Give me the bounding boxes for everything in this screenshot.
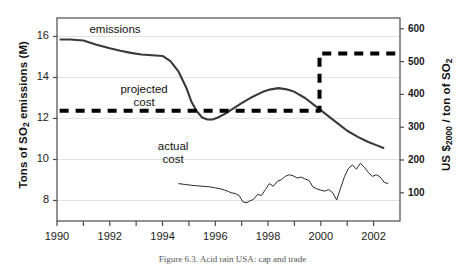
emissions-label: emissions [75,23,155,35]
y-axis-right-title-prefix: US $ [440,145,452,171]
y-tick-right-100: 100 [408,187,442,198]
y-tick-left-14: 14 [19,70,49,82]
data-series [60,40,400,203]
x-tick-1998: 1998 [248,230,288,242]
x-tick-2002: 2002 [354,230,394,242]
axis-ticks [53,29,404,226]
y-axis-right-title-sub2: 2 [444,58,454,63]
plot-area [0,0,465,265]
projected-cost-label-2: cost [104,96,184,108]
y-tick-right-300: 300 [408,121,442,132]
y-tick-right-500: 500 [408,56,442,67]
y-axis-right-title-sub: 2000 [444,126,454,145]
x-tick-1994: 1994 [143,230,183,242]
y-tick-left-16: 16 [19,29,49,41]
chart-figure: Tons of SO2 emissions (M) US $2000 / ton… [0,0,465,265]
figure-caption: Figure 6.3. Acid rain USA: cap and trade [0,254,465,265]
y-tick-left-8: 8 [19,193,49,205]
projected-cost-label: projected [104,83,184,95]
y-axis-right-title-suffix: / ton of SO [440,63,452,126]
gridlines [57,36,400,200]
actual-cost-label: actual [133,140,213,152]
actual-cost-label-2: cost [133,153,213,165]
x-tick-1990: 1990 [37,230,77,242]
y-tick-left-10: 10 [19,152,49,164]
x-tick-2000: 2000 [301,230,341,242]
y-tick-left-12: 12 [19,111,49,123]
y-axis-right-title: US $2000 / ton of SO2 [440,15,454,215]
x-tick-1996: 1996 [195,230,235,242]
x-tick-1992: 1992 [90,230,130,242]
y-tick-right-200: 200 [408,154,442,165]
y-tick-right-600: 600 [408,23,442,34]
y-tick-right-400: 400 [408,88,442,99]
series-line-actual-cost [178,163,388,202]
